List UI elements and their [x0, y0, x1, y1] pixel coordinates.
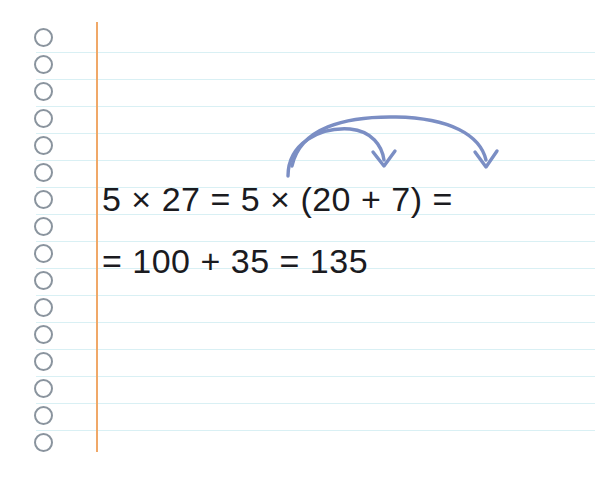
margin-line — [96, 22, 98, 452]
punch-hole — [34, 271, 53, 290]
rule-line — [36, 106, 595, 107]
rule-line — [36, 349, 595, 350]
punch-hole — [34, 379, 53, 398]
paper-sheet: 5 × 27 = 5 × (20 + 7) = = 100 + 35 = 135 — [0, 0, 595, 452]
punch-hole — [34, 109, 53, 128]
punch-hole — [34, 82, 53, 101]
rule-line — [36, 322, 595, 323]
punch-hole — [34, 163, 53, 182]
rule-line — [36, 160, 595, 161]
punch-hole — [34, 406, 53, 425]
arrow-distribute-to-20 — [288, 129, 395, 176]
rule-line — [36, 376, 595, 377]
rule-line — [36, 133, 595, 134]
notebook-page: 5 × 27 = 5 × (20 + 7) = = 100 + 35 = 135 — [0, 0, 595, 478]
punch-hole — [34, 28, 53, 47]
equation-line-2: = 100 + 35 = 135 — [102, 242, 368, 281]
punch-hole — [34, 55, 53, 74]
rule-line — [36, 403, 595, 404]
rule-line — [36, 79, 595, 80]
punch-hole — [34, 433, 53, 452]
punch-hole — [34, 325, 53, 344]
distributive-arrows — [0, 0, 595, 452]
punch-hole — [34, 136, 53, 155]
equation-line-1: 5 × 27 = 5 × (20 + 7) = — [102, 180, 453, 219]
rule-line — [36, 52, 595, 53]
punch-hole — [34, 352, 53, 371]
rule-line — [36, 295, 595, 296]
punch-hole — [34, 190, 53, 209]
punch-hole — [34, 217, 53, 236]
rule-line — [36, 430, 595, 431]
punch-hole — [34, 244, 53, 263]
punch-hole — [34, 298, 53, 317]
